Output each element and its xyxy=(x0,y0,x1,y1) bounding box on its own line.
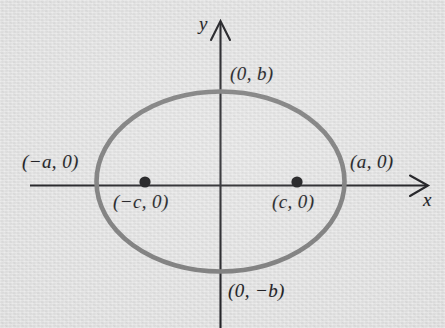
y-axis-label: y xyxy=(199,14,207,33)
x-axis-group xyxy=(30,176,428,197)
left-focus-point xyxy=(139,176,150,187)
label-bottom-vertex: (0, −b) xyxy=(228,281,285,300)
label-top-vertex: (0, b) xyxy=(230,64,274,83)
ellipse-diagram-figure: (0, b) (0, −b) (−a, 0) (a, 0) (−c, 0) (c… xyxy=(0,0,445,328)
x-axis-label: x xyxy=(423,190,431,209)
label-right-vertex: (a, 0) xyxy=(350,152,394,171)
right-focus-point xyxy=(291,176,302,187)
label-left-vertex: (−a, 0) xyxy=(22,152,79,171)
label-right-focus: (c, 0) xyxy=(272,192,315,211)
label-left-focus: (−c, 0) xyxy=(113,192,169,211)
